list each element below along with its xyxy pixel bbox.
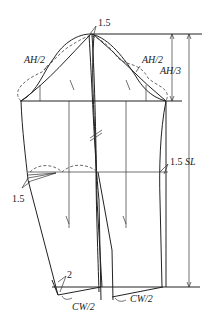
label-ah-half-right: AH/2: [141, 54, 163, 65]
grain-mark-top-right: [126, 80, 130, 90]
front-seam-left: [21, 101, 58, 295]
elbow-dart-lines: [28, 173, 56, 182]
label-top-ease: 1.5: [98, 17, 111, 28]
label-elbow-right: 1.5: [170, 156, 183, 167]
label-ah-half-left: AH/2: [23, 54, 45, 65]
leader-hem-offset: [58, 276, 66, 292]
cap-line-back: [93, 34, 166, 101]
cap-curve-front: [21, 34, 91, 101]
center-seam-b: [92, 35, 102, 287]
elbow-dashed-curve: [30, 165, 98, 172]
grain-mark-top-left: [70, 80, 74, 90]
label-cap-height: AH/3: [159, 65, 181, 76]
leader-cuff-right: [115, 298, 126, 301]
hem-left-piece: [58, 287, 101, 295]
label-cuff-right: CW/2: [130, 293, 153, 304]
leader-elbow-right: [160, 164, 168, 174]
label-hem-offset: 2: [67, 269, 72, 280]
leader-elbow-left: [22, 178, 30, 188]
leader-cuff-left: [62, 296, 72, 299]
grain-arrow-left: [66, 216, 69, 224]
back-seam-right: [160, 101, 166, 287]
leader-top-ease: [90, 26, 96, 34]
sleeve-pattern-diagram: 1.5 AH/2 AH/2 AH/3 1.5 SL 1.5 2 CW/2 CW/…: [0, 0, 214, 327]
label-cuff-left: CW/2: [72, 301, 95, 312]
label-elbow-left: 1.5: [12, 193, 25, 204]
cap-line-front: [21, 34, 91, 101]
grain-arrow-right: [123, 216, 126, 224]
cap-dashed-front: [18, 36, 92, 101]
label-sleeve-length: SL: [185, 156, 196, 167]
